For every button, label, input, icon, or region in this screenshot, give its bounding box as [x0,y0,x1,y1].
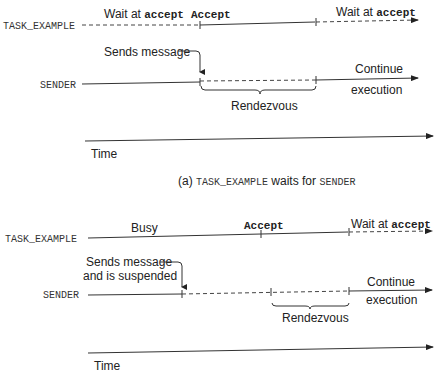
sender-label: SENDER [40,80,76,91]
task-wait-dashed-arrow-b [349,231,432,232]
sends-message-label-b: Sends message [86,255,172,269]
accept-label-b: Accept [244,220,284,232]
continue-label-b: Continue [367,275,415,289]
panel-a: TASK_EXAMPLE Wait at accept Accept Wait … [3,5,433,188]
rendezvous-diagram: TASK_EXAMPLE Wait at accept Accept Wait … [0,0,443,386]
panel-a-caption: (a) TASK_EXAMPLE waits for SENDER [178,174,355,188]
task-accept-solid-line [200,22,315,25]
sender-label-b: SENDER [43,290,79,301]
sender-dashed-line-b [182,291,349,294]
accept-label: Accept [191,9,231,21]
and-is-suspended-label: and is suspended [83,269,177,283]
time-label-b: Time [94,359,121,373]
continue-label: Continue [355,62,403,76]
sender-solid-line [82,82,200,84]
rendezvous-label: Rendezvous [231,99,298,113]
task-busy-solid-line [88,232,348,238]
rendezvous-brace [201,86,316,94]
time-axis [85,136,433,141]
panel-b: TASK_EXAMPLE Busy Accept Wait at accept … [5,217,433,373]
task-example-label-b: TASK_EXAMPLE [5,234,77,245]
time-label: Time [91,147,118,161]
rendezvous-brace-b [272,303,349,309]
task-wait-dashed-arrow [316,20,418,22]
wait-at-accept-label-b: Wait at accept [351,217,431,231]
task-example-label: TASK_EXAMPLE [3,21,75,32]
busy-label: Busy [131,221,158,235]
wait-at-accept-label-1: Wait at accept [104,7,184,21]
execution-label: execution [351,83,402,97]
sender-solid-line-b [88,294,182,295]
sender-dashed-line [200,80,316,81]
sender-continue-arrow-b [349,290,432,291]
rendezvous-label-b: Rendezvous [282,311,349,325]
time-axis-b [88,347,433,353]
sends-message-label: Sends message [104,45,190,59]
wait-at-accept-label-2: Wait at accept [336,5,416,19]
sender-continue-arrow [316,78,418,80]
execution-label-b: execution [366,293,417,307]
